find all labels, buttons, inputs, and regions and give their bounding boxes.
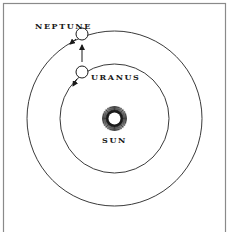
- neptune-label: NEPTUNE: [35, 21, 92, 31]
- sun-label: SUN: [102, 135, 127, 145]
- neptune-orbit-direction-arrow-icon: [70, 39, 76, 44]
- diagram-canvas: SUN NEPTUNEURANUS: [0, 0, 229, 232]
- arrows: [70, 39, 82, 86]
- sun-icon: [102, 106, 127, 131]
- uranus-planet-icon: [76, 66, 88, 78]
- uranus-label: URANUS: [91, 72, 141, 82]
- planets: NEPTUNEURANUS: [35, 21, 141, 82]
- solar-system-diagram: SUN NEPTUNEURANUS: [0, 0, 229, 232]
